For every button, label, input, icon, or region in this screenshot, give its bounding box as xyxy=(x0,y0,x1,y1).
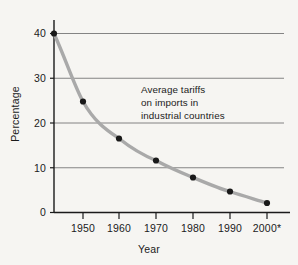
x-tick-label-1970: 1970 xyxy=(144,222,168,234)
y-tick-label-40: 40 xyxy=(34,27,46,39)
data-point-1980 xyxy=(190,174,196,180)
x-tick-label-2000: 2000* xyxy=(253,222,281,234)
annotation-line-2: on imports in xyxy=(141,97,198,108)
y-tick-label-20: 20 xyxy=(34,117,46,129)
annotation-line-3: industrial countries xyxy=(141,110,225,121)
y-tick-label-10: 10 xyxy=(34,162,46,174)
data-point-1960 xyxy=(116,135,122,141)
y-tick-label-0: 0 xyxy=(40,206,46,218)
x-axis-title: Year xyxy=(0,243,298,255)
data-point-1990 xyxy=(227,188,233,194)
x-tick-label-1950: 1950 xyxy=(71,222,95,234)
data-point-2000 xyxy=(264,200,270,206)
tariffs-line-chart: 40 30 20 10 0 1950 1960 1970 1980 1990 2… xyxy=(0,0,298,265)
data-point-1947 xyxy=(51,30,57,36)
data-point-1970 xyxy=(153,157,159,163)
y-axis-title: Percentage xyxy=(9,79,21,149)
x-tick-label-1980: 1980 xyxy=(181,222,205,234)
annotation-line-1: Average tariffs xyxy=(141,84,205,95)
y-tick-label-30: 30 xyxy=(34,72,46,84)
x-tick-label-1990: 1990 xyxy=(218,222,242,234)
data-point-1950 xyxy=(80,98,86,104)
x-tick-label-1960: 1960 xyxy=(107,222,131,234)
chart-figure: 40 30 20 10 0 1950 1960 1970 1980 1990 2… xyxy=(0,0,298,265)
